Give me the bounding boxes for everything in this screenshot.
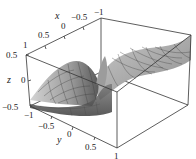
y-tick-neg1: −1 — [24, 110, 34, 120]
z-axis-label: z — [6, 74, 11, 85]
y-tick-neg0.5: −0.5 — [38, 121, 55, 131]
x-tick-0: 0 — [61, 21, 66, 31]
x-axis-label: x — [54, 10, 60, 21]
x-tick-neg1: −1 — [94, 7, 104, 17]
z-tick-0: 0 — [21, 75, 26, 85]
x-tick-1: 1 — [23, 40, 28, 50]
y-axis: −1 −0.5 0 0.5 1 y — [24, 110, 119, 159]
surface — [30, 35, 191, 116]
x-axis: 1 0.5 0 −0.5 −1 x — [23, 7, 104, 50]
y-tick-1: 1 — [114, 151, 119, 159]
z-tick-0.5: 0.5 — [6, 50, 18, 60]
z-tick-neg0.5: −0.5 — [2, 102, 19, 112]
x-tick-0.5: 0.5 — [38, 30, 50, 40]
y-tick-0: 0 — [67, 129, 72, 139]
y-axis-label: y — [56, 134, 62, 145]
y-tick-0.5: 0.5 — [85, 142, 97, 152]
surface-plot: 1 0.5 0 −0.5 −1 x 0.5 0 −0.5 z −1 −0.5 0… — [0, 0, 196, 159]
x-tick-neg0.5: −0.5 — [71, 12, 88, 22]
